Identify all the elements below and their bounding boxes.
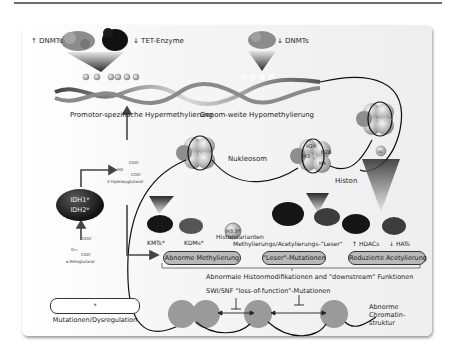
tet-down-label: ↓ TET-Enzyme (133, 37, 184, 45)
methyl-marks (83, 74, 274, 80)
hypomethylation-label: Genom-weite Hypomethylierung (200, 111, 314, 119)
hyper-cone-icon (66, 52, 124, 72)
akg-group2: O= (71, 247, 78, 252)
dna-helix-icon (55, 80, 320, 104)
acetyl-cone (362, 159, 400, 212)
idh-mutant-ellipse: IDH1* IDH2* (56, 189, 104, 221)
two-hydroxyglutarate-label: 2-Hydroxyglutarat (107, 179, 143, 184)
swi-snf-label: SWI/SNF "loss-of-function"-Mutationen (206, 287, 330, 295)
up-arrow-icon: ↑ (352, 240, 357, 247)
dnmt-down-label: ↓ DNMTs (277, 37, 309, 45)
akg-group3: COO⁻ (81, 252, 92, 257)
kdms-label: KDMs* (184, 240, 204, 246)
dnmt-enzyme-icon (61, 31, 95, 51)
hypermethylation-label: Promotor-spezifische Hypermethylierung (70, 111, 213, 119)
down-arrow-icon: ↓ (277, 37, 283, 45)
chromatin-structure-label: Abnorme Chromatin- struktur (369, 303, 405, 327)
acetylated-nucleosome-icon (356, 102, 394, 156)
readers-label: Methylierungs/Acetylierungs-"Leser" (233, 241, 342, 247)
hats-label: ↓ HATs (389, 241, 410, 247)
acetyl-mark-label: Ac (378, 149, 383, 154)
kmt-cone (149, 196, 174, 214)
tet-enzyme-icon (102, 28, 128, 51)
up-arrow-icon: ↑ (31, 37, 37, 45)
dnmt-enzyme-right-icon (248, 31, 276, 49)
histone-label: Histon (335, 177, 357, 185)
inhibition-arrows (218, 295, 326, 315)
histone-modification-label: Abnormale Histonmodifikationen and "down… (206, 273, 413, 281)
pill-reduced-acetylation: Reduzierte Acetylierung (348, 251, 426, 265)
two-hg-group2: HO (117, 167, 123, 172)
two-hg-group3: COO⁻ (131, 172, 142, 177)
chromatin-fiber-icon (168, 300, 376, 336)
hdacs-label: ↑ HDACs (352, 241, 379, 247)
kmts-label: KMTs* (147, 240, 165, 246)
nucleosome-label: Nukleosom (228, 155, 267, 163)
histone-subunit-h2b: H2B (321, 149, 331, 155)
down-arrow-icon: ↓ (133, 37, 139, 45)
akg-group1: COO⁻ (82, 236, 93, 241)
alpha-ketoglutarate-label: α-Ketoglutarat (66, 259, 95, 264)
modifier-enzymes (147, 202, 406, 235)
two-hg-group1: COO⁻ (129, 160, 140, 165)
hypo-cone-icon (248, 51, 276, 71)
histone-subunit-h4: H4 (319, 160, 326, 166)
legend-box: * Mutationen/Dysregulation (50, 298, 140, 314)
histone-subunit-h2a: H2A (306, 143, 316, 149)
nucleosome-icon (176, 136, 215, 170)
histone-subunit-h3: H3 (303, 153, 310, 159)
pill-abnormal-methylation: Abnorme Methylierung (163, 251, 241, 265)
pill-reader-mutations: "Leser"-Mutationen (262, 251, 326, 265)
dnmt-up-label: ↑ DNMTs (31, 37, 63, 45)
down-arrow-icon: ↓ (389, 240, 394, 247)
